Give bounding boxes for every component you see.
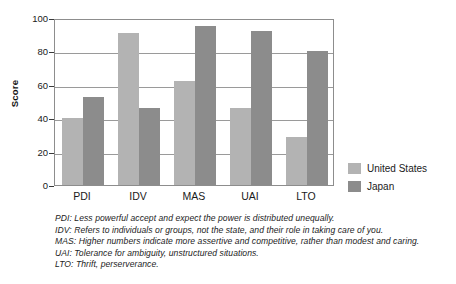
x-axis-label-uai: UAI xyxy=(220,190,280,202)
y-axis-tick-label: 20 xyxy=(20,148,48,158)
x-axis-label-mas: MAS xyxy=(164,190,224,202)
y-axis-tick-mark xyxy=(49,153,54,154)
bar-pdi-japan xyxy=(83,97,104,186)
legend-label: United States xyxy=(367,163,427,174)
legend-item-japan: Japan xyxy=(348,179,453,194)
footnote-line-2: IDV: Refers to individuals or groups, no… xyxy=(55,225,453,237)
chart-legend: United StatesJapan xyxy=(348,161,453,197)
legend-label: Japan xyxy=(367,181,394,192)
footnote-line-1: PDI: Less powerful accept and expect the… xyxy=(55,213,453,225)
bar-idv-united-states xyxy=(118,33,139,185)
y-axis-tick-labels: 020406080100 xyxy=(16,19,48,186)
x-axis-label-pdi: PDI xyxy=(52,190,112,202)
bar-chart: Score 020406080100 PDIIDVMASUAILTO Unite… xyxy=(0,0,456,205)
footnote-line-4: UAI: Tolerance for ambiguity, unstructur… xyxy=(55,248,453,260)
y-axis-tick-label: 60 xyxy=(20,81,48,91)
y-axis-tick-label: 100 xyxy=(20,14,48,24)
legend-item-united-states: United States xyxy=(348,161,453,176)
legend-swatch-icon xyxy=(348,181,361,192)
bar-idv-japan xyxy=(139,108,160,185)
legend-swatch-icon xyxy=(348,163,361,174)
y-axis-tick-mark xyxy=(49,52,54,53)
bar-uai-united-states xyxy=(230,108,251,185)
y-axis-tick-label: 0 xyxy=(20,181,48,191)
y-axis-tick-label: 80 xyxy=(20,47,48,57)
bar-mas-united-states xyxy=(174,81,195,185)
plot-area xyxy=(54,19,334,186)
bar-group-idv xyxy=(118,20,160,185)
footnote-line-5: LTO: Thrift, perserverance. xyxy=(55,259,453,271)
x-axis-tick-labels: PDIIDVMASUAILTO xyxy=(54,190,334,204)
bar-group-lto xyxy=(286,20,328,185)
y-axis-tick-mark xyxy=(49,119,54,120)
bar-lto-united-states xyxy=(286,137,307,185)
bar-lto-japan xyxy=(307,51,328,185)
bar-group-mas xyxy=(174,20,216,185)
y-axis-tick-label: 40 xyxy=(20,114,48,124)
bar-mas-japan xyxy=(195,26,216,185)
x-axis-label-idv: IDV xyxy=(108,190,168,202)
bar-group-pdi xyxy=(62,20,104,185)
bar-pdi-united-states xyxy=(62,118,83,185)
y-axis-tick-mark xyxy=(49,19,54,20)
y-axis-tick-mark xyxy=(49,186,54,187)
bar-uai-japan xyxy=(251,31,272,185)
footnote-line-3: MAS: Higher numbers indicate more assert… xyxy=(55,236,453,248)
footnotes-block: PDI: Less powerful accept and expect the… xyxy=(55,213,453,271)
bar-group-uai xyxy=(230,20,272,185)
y-axis-tick-mark xyxy=(49,86,54,87)
x-axis-label-lto: LTO xyxy=(276,190,336,202)
